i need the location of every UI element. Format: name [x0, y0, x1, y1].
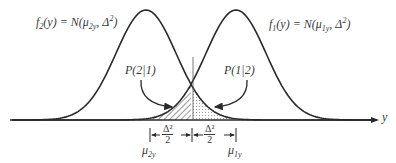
- axis-label: y: [382, 110, 387, 125]
- f1-label: f1(y) = N(μ1y, Δ2): [269, 16, 350, 33]
- mu1-label: μ1y: [228, 143, 242, 159]
- f2-label: f2(y) = N(μ2y, Δ2): [36, 14, 117, 31]
- p21-region: [12, 84, 191, 120]
- half-delta-right: Δ²2: [204, 124, 215, 145]
- axis-arrow-icon: [371, 117, 379, 123]
- arrow-p21-icon: [141, 80, 172, 107]
- arrow-p12-icon: [215, 80, 247, 107]
- p12-label: P(1|2): [224, 63, 255, 78]
- half-delta-left: Δ²2: [162, 124, 173, 145]
- diagram-canvas: f2(y) = N(μ2y, Δ2) f1(y) = N(μ1y, Δ2) P(…: [0, 0, 396, 163]
- mu2-label: μ2y: [142, 143, 156, 159]
- p21-label: P(2|1): [125, 63, 156, 78]
